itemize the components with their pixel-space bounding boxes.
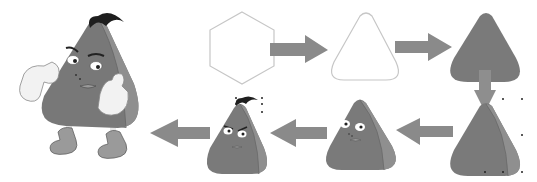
- step-4-shaded-body: [450, 98, 523, 176]
- right-shoe: [98, 130, 127, 158]
- arrow-right-2: [395, 33, 452, 61]
- step-7-final-character: [20, 13, 139, 158]
- step-1-hexagon: [210, 12, 274, 84]
- drawing-steps-diagram: [0, 0, 537, 182]
- step-2-rounded-triangle: [332, 13, 399, 80]
- arrow-left-2: [270, 119, 327, 147]
- arrow-left-3: [150, 119, 210, 147]
- arrow-left-1: [396, 118, 453, 145]
- left-shoe: [50, 128, 77, 155]
- arrow-right-1: [270, 35, 328, 63]
- step-6-angry-face: [207, 96, 267, 174]
- step-5-face-body: [326, 100, 396, 171]
